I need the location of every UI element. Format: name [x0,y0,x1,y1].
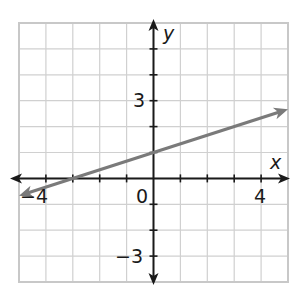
x-tick-label-0: 0 [136,185,148,207]
y-axis-label: y [162,22,175,44]
coordinate-plane: −4 0 4 3 −3 x y [0,0,300,291]
y-tick-label-neg3: −3 [115,245,143,267]
y-tick-label-3: 3 [133,89,145,111]
x-tick-label-4: 4 [254,185,266,207]
x-axis-label: x [269,151,282,173]
x-tick-label-neg4: −4 [20,185,48,207]
